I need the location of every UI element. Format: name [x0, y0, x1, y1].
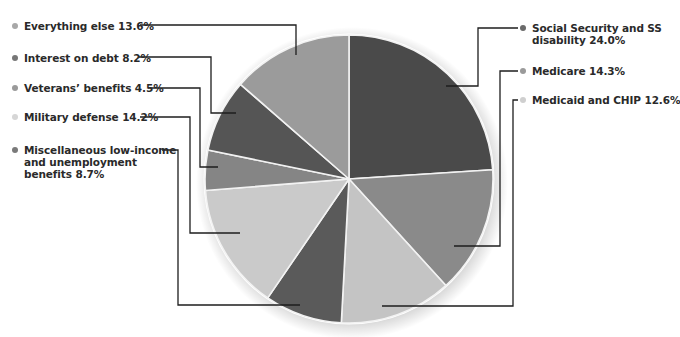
bullet-icon	[520, 68, 526, 74]
bullet-icon	[12, 114, 18, 120]
label-veterans-benefits: Veterans’ benefits 4.5%	[24, 82, 164, 94]
label-military-defense: Military defense 14.2%	[24, 111, 158, 123]
bullet-icon	[12, 85, 18, 91]
label-social-security: Social Security and SSdisability 24.0%	[532, 22, 662, 46]
pie-slice	[349, 35, 493, 179]
bullet-icon	[12, 147, 18, 153]
label-medicaid-chip: Medicaid and CHIP 12.6%	[532, 94, 680, 106]
pie-slices	[205, 35, 493, 323]
bullet-icon	[12, 55, 18, 61]
bullet-icon	[12, 23, 18, 29]
label-medicare: Medicare 14.3%	[532, 65, 625, 77]
label-everything-else: Everything else 13.6%	[24, 20, 154, 32]
bullet-icon	[520, 97, 526, 103]
label-misc-low-income: Miscellaneous low-incomeand unemployment…	[24, 144, 176, 180]
bullet-icon	[520, 25, 526, 31]
label-interest-on-debt: Interest on debt 8.2%	[24, 52, 151, 64]
